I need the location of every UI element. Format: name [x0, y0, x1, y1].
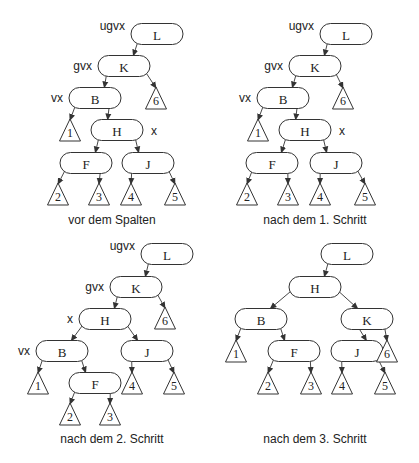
node-label: H	[310, 281, 319, 296]
tree-node-H: H	[279, 120, 331, 141]
tree-node-L: L	[141, 244, 193, 265]
subtree-label: 5	[172, 190, 178, 204]
subtree-label: 6	[153, 94, 159, 108]
tree-node-L: L	[131, 24, 183, 45]
node-label: F	[82, 157, 89, 172]
subtree-label: 6	[384, 347, 390, 361]
subtree-triangle-2: 2	[48, 183, 69, 205]
subtree-label: 3	[96, 190, 102, 204]
subtree-label: 4	[339, 379, 345, 393]
tree-node-L: L	[320, 24, 372, 45]
pointer-label-ugvx: ugvx	[100, 19, 125, 33]
subtree-label: 6	[162, 314, 168, 328]
pointer-label-gvx: gvx	[73, 59, 92, 73]
tree-node-K: K	[110, 277, 162, 298]
tree-node-K: K	[289, 56, 341, 77]
node-label: K	[310, 60, 320, 75]
subtree-triangle-5: 5	[164, 372, 185, 394]
tree-node-J: J	[331, 341, 383, 362]
pointer-label-ugvx: ugvx	[289, 19, 314, 33]
node-label: F	[91, 377, 98, 392]
tree-node-L: L	[321, 244, 373, 265]
tree-node-J: J	[121, 341, 173, 362]
subtree-label: 4	[129, 379, 135, 393]
tree-node-J: J	[310, 153, 362, 174]
subtree-triangle-3: 3	[278, 183, 299, 205]
tree-node-F: F	[60, 153, 112, 174]
subtree-label: 4	[317, 190, 323, 204]
tree-panel: LKBHFJ612345ugvxgvxvxxnach dem 1. Schrit…	[237, 19, 376, 227]
splay-tree-figure: LKBHFJ612345ugvxgvxvxxvor dem SpaltenLKB…	[0, 0, 419, 463]
subtree-label: 5	[171, 379, 177, 393]
subtree-triangle-5: 5	[375, 372, 396, 394]
subtree-triangle-3: 3	[100, 403, 121, 425]
pointer-label-ugvx: ugvx	[110, 239, 135, 253]
subtree-label: 3	[107, 410, 113, 424]
tree-node-F: F	[246, 153, 298, 174]
subtree-label: 4	[128, 190, 134, 204]
tree-panel: LHBKFJ162345nach dem 3. Schritt	[226, 244, 398, 447]
node-label: F	[268, 157, 275, 172]
tree-node-B: B	[36, 341, 88, 362]
node-label: H	[112, 124, 121, 139]
panel-caption: nach dem 2. Schritt	[60, 432, 164, 446]
node-label: H	[300, 124, 309, 139]
panel-caption: nach dem 3. Schritt	[263, 432, 367, 446]
tree-node-F: F	[69, 373, 121, 394]
subtree-label: 2	[244, 190, 250, 204]
subtree-label: 1	[255, 126, 261, 140]
subtree-triangle-6: 6	[155, 307, 176, 329]
tree-panel: LKBHFJ612345ugvxgvxvxxvor dem Spalten	[48, 19, 186, 227]
subtree-triangle-2: 2	[60, 403, 81, 425]
subtree-label: 2	[55, 190, 61, 204]
pointer-label-gvx: gvx	[264, 59, 283, 73]
subtree-label: 3	[285, 190, 291, 204]
subtree-label: 1	[233, 347, 239, 361]
subtree-triangle-1: 1	[248, 119, 269, 141]
subtree-triangle-3: 3	[89, 183, 110, 205]
subtree-label: 1	[67, 126, 73, 140]
subtree-triangle-4: 4	[310, 183, 331, 205]
node-label: B	[257, 313, 266, 328]
subtree-triangle-5: 5	[355, 183, 376, 205]
tree-node-K: K	[341, 309, 393, 330]
node-label: B	[279, 92, 288, 107]
subtree-triangle-4: 4	[121, 183, 142, 205]
node-label: L	[343, 248, 351, 263]
node-label: L	[153, 28, 161, 43]
node-label: L	[163, 248, 171, 263]
node-label: J	[144, 345, 149, 360]
subtree-label: 2	[67, 410, 73, 424]
node-label: K	[119, 60, 129, 75]
panel-caption: vor dem Spalten	[68, 213, 155, 227]
tree-node-H: H	[289, 277, 341, 298]
subtree-triangle-3: 3	[301, 372, 322, 394]
subtree-triangle-4: 4	[332, 372, 353, 394]
node-label: J	[354, 345, 359, 360]
subtree-triangle-1: 1	[226, 340, 247, 362]
subtree-label: 3	[308, 379, 314, 393]
pointer-label-x: x	[339, 124, 345, 138]
pointer-label-vx: vx	[239, 91, 251, 105]
subtree-triangle-1: 1	[28, 372, 49, 394]
pointer-label-x: x	[67, 312, 73, 326]
node-label: F	[290, 345, 297, 360]
node-label: K	[362, 313, 372, 328]
node-label: J	[333, 157, 338, 172]
subtree-label: 1	[35, 379, 41, 393]
node-label: H	[100, 313, 109, 328]
tree-panel: LKHBJF614523ugvxgvxxvxnach dem 2. Schrit…	[18, 239, 193, 446]
subtree-label: 5	[382, 379, 388, 393]
panel-caption: nach dem 1. Schritt	[263, 213, 367, 227]
panels-layer: LKBHFJ612345ugvxgvxvxxvor dem SpaltenLKB…	[18, 19, 398, 446]
subtree-triangle-2: 2	[258, 372, 279, 394]
subtree-label: 2	[265, 379, 271, 393]
tree-node-B: B	[257, 88, 309, 109]
pointer-label-gvx: gvx	[85, 280, 104, 294]
tree-node-H: H	[79, 309, 131, 330]
node-label: B	[58, 345, 67, 360]
node-label: B	[91, 92, 100, 107]
pointer-label-x: x	[151, 124, 157, 138]
subtree-triangle-6: 6	[333, 87, 354, 109]
subtree-label: 5	[362, 190, 368, 204]
